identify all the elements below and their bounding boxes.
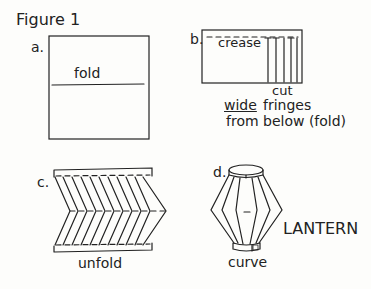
panel-b-paper xyxy=(202,30,302,83)
figure-drawing xyxy=(0,0,371,289)
panel-c-unfolded xyxy=(54,168,166,252)
panel-d-lantern xyxy=(211,165,282,251)
panel-a-paper xyxy=(49,36,149,139)
